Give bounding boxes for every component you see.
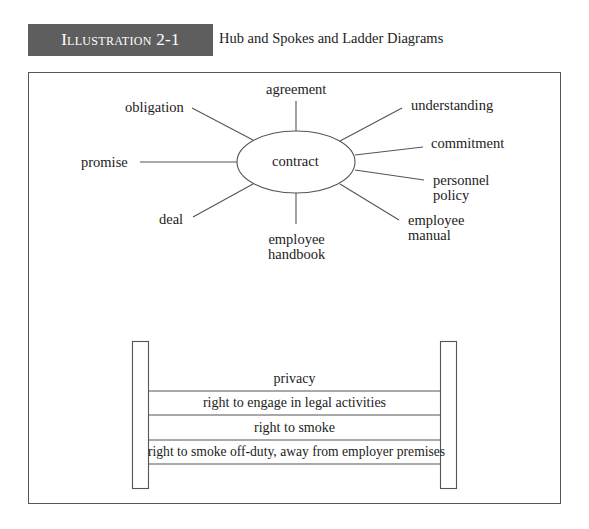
spoke-obligation [192, 108, 253, 140]
ladder-label-legal-activities: right to engage in legal activities [148, 395, 441, 411]
spoke-label-agreement: agreement [266, 82, 326, 97]
spoke-employee-manual [340, 184, 399, 220]
spoke-label-deal: deal [159, 212, 183, 227]
spoke-label-obligation: obligation [125, 100, 184, 115]
ladder-label-right-to-smoke: right to smoke [148, 420, 441, 436]
ladder-label-off-duty-smoking: right to smoke off-duty, away from emplo… [148, 444, 441, 460]
spoke-commitment [355, 147, 423, 155]
spoke-label-employee-handbook: employee handbook [268, 232, 325, 262]
spoke-label-personnel-policy: personnel policy [433, 173, 489, 203]
spoke-label-understanding: understanding [411, 98, 493, 113]
spoke-personnel-policy [355, 170, 424, 180]
spoke-label-promise: promise [81, 155, 128, 170]
hub-center-label: contract [272, 154, 319, 169]
spoke-understanding [340, 108, 402, 141]
spoke-label-employee-manual: employee manual [408, 213, 464, 243]
ladder-left-rail [133, 342, 149, 489]
spoke-label-commitment: commitment [431, 136, 504, 151]
ladder-right-rail [441, 342, 457, 489]
spoke-deal [193, 184, 253, 217]
ladder-label-privacy: privacy [148, 371, 441, 387]
